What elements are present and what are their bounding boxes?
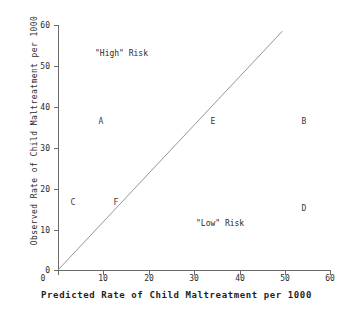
y-tick-label-40: 40 — [22, 103, 50, 112]
data-point-d[interactable]: D — [297, 205, 311, 213]
low-risk-label: "Low" Risk — [196, 219, 244, 228]
x-tick-label-0: 0 — [28, 274, 58, 283]
y-axis-line — [58, 25, 59, 271]
scatter-plot-figure: Observed Rate of Child Maltreatment per … — [0, 0, 353, 312]
high-risk-label: "High" Risk — [95, 49, 148, 58]
y-tick-20 — [54, 189, 58, 190]
x-tick-label-30: 30 — [179, 274, 209, 283]
data-point-e[interactable]: E — [206, 118, 220, 126]
data-point-a[interactable]: A — [94, 118, 108, 126]
x-tick-label-50: 50 — [270, 274, 300, 283]
y-tick-60 — [54, 25, 58, 26]
x-tick-label-10: 10 — [88, 274, 118, 283]
x-tick-label-20: 20 — [134, 274, 164, 283]
y-tick-label-10: 10 — [22, 226, 50, 235]
data-point-c[interactable]: C — [66, 199, 80, 207]
y-tick-label-50: 50 — [22, 62, 50, 71]
x-axis-title: Predicted Rate of Child Maltreatment per… — [0, 290, 353, 300]
y-tick-10 — [54, 230, 58, 231]
y-tick-40 — [54, 107, 58, 108]
y-tick-30 — [54, 148, 58, 149]
x-tick-0 — [58, 271, 59, 275]
x-tick-label-40: 40 — [225, 274, 255, 283]
y-tick-50 — [54, 66, 58, 67]
data-point-f[interactable]: F — [109, 199, 123, 207]
data-point-b[interactable]: B — [297, 118, 311, 126]
y-axis-title: Observed Rate of Child Maltreatment per … — [30, 1, 39, 261]
y-tick-label-60: 60 — [22, 21, 50, 30]
identity-reference-line — [0, 0, 353, 312]
y-tick-label-20: 20 — [22, 185, 50, 194]
y-tick-label-30: 30 — [22, 144, 50, 153]
x-tick-label-60: 60 — [315, 274, 345, 283]
